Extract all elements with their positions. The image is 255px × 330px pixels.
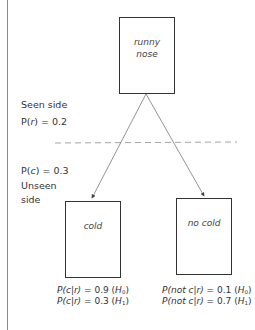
node-cold: cold [65,201,121,278]
node-no-cold: no cold [176,198,232,275]
no-cold-prob-h1: P(not c|r) = 0.7 (H1) [162,296,251,309]
seen-side-probability: P(r) = 0.2 [21,115,67,128]
node-label: nose [120,48,174,60]
divider-dashed-line [55,142,237,143]
node-label: no cold [177,217,231,229]
arrow-to-no-cold [146,94,204,196]
cold-prob-h1: P(c|r) = 0.3 (H1) [57,296,129,309]
unseen-side-probability: P(c) = 0.3 [21,164,69,177]
node-runny-nose: runny nose [119,17,175,94]
unseen-side-label: side [21,193,40,206]
node-label: runny [120,36,174,48]
unseen-side-label: Unseen [21,179,57,192]
seen-side-label: Seen side [21,98,67,111]
node-label: cold [66,220,120,232]
arrow-to-cold [92,94,146,198]
